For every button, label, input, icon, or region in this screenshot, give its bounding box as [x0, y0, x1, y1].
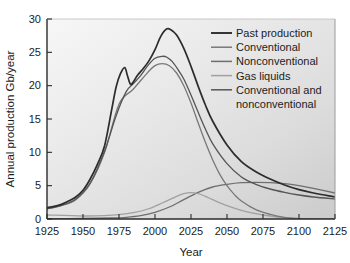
- annual-production-line-chart: 051015202530 192519501975200020252050207…: [0, 0, 350, 263]
- x-tick-label-2100: 2100: [287, 225, 311, 237]
- x-tick-label-2050: 2050: [215, 225, 239, 237]
- legend-label-2: Nonconventional: [236, 55, 318, 67]
- y-tick-label-25: 25: [29, 46, 41, 58]
- legend-label-4: Conventional and: [236, 84, 322, 96]
- legend-label-5: nonconventional: [236, 98, 316, 110]
- x-tick-label-2000: 2000: [143, 225, 167, 237]
- y-tick-label-15: 15: [29, 113, 41, 125]
- x-tick-label-1925: 1925: [35, 225, 59, 237]
- x-tick-label-1950: 1950: [71, 225, 95, 237]
- x-tick-label-2075: 2075: [251, 225, 275, 237]
- y-tick-label-5: 5: [35, 179, 41, 191]
- y-axis-title: Annual production Gb/year: [4, 50, 16, 187]
- y-tick-label-30: 30: [29, 13, 41, 25]
- x-tick-label-2025: 2025: [179, 225, 203, 237]
- figure-container: 051015202530 192519501975200020252050207…: [0, 0, 350, 263]
- x-tick-label-1975: 1975: [107, 225, 131, 237]
- y-tick-label-10: 10: [29, 146, 41, 158]
- x-axis-title: Year: [179, 246, 202, 258]
- legend-label-1: Conventional: [236, 41, 300, 53]
- y-tick-label-20: 20: [29, 79, 41, 91]
- x-tick-label-2125: 2125: [323, 225, 347, 237]
- legend-label-3: Gas liquids: [236, 70, 291, 82]
- y-tick-label-0: 0: [35, 213, 41, 225]
- legend-label-0: Past production: [236, 27, 312, 39]
